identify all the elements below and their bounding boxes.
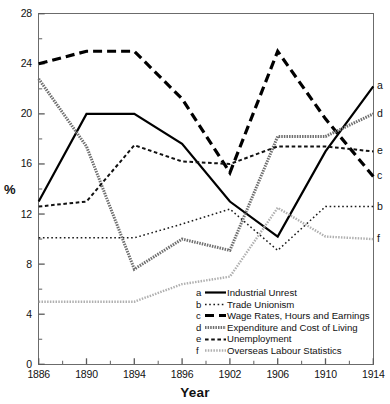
y-axis-title: %	[4, 182, 16, 197]
x-tick-label: 1894	[111, 368, 157, 380]
legend-key-f: f	[196, 345, 205, 357]
series-edge-label-f: f	[377, 232, 380, 244]
x-tick-label: 1886	[16, 368, 62, 380]
legend-swatch-c	[205, 311, 226, 320]
legend-item-d: dExpenditure and Cost of Living	[196, 322, 370, 334]
legend-label-b: Trade Unionism	[227, 299, 294, 311]
legend-key-d: d	[196, 322, 205, 334]
legend-label-f: Overseas Labour Statistics	[227, 345, 342, 357]
series-edge-label-c: c	[377, 169, 382, 181]
legend-label-a: Industrial Unrest	[227, 287, 297, 299]
legend-key-c: c	[196, 310, 205, 322]
legend-swatch-f	[205, 346, 226, 355]
legend-item-b: bTrade Unionism	[196, 299, 370, 311]
x-axis-title: Year	[0, 385, 390, 400]
y-tick-label: 24	[6, 57, 32, 69]
x-tick-label: 1906	[255, 368, 301, 380]
legend-item-e: eUnemployment	[196, 333, 370, 345]
series-edge-label-a: a	[377, 79, 383, 91]
legend-item-a: aIndustrial Unrest	[196, 287, 370, 299]
legend-key-e: e	[196, 333, 205, 345]
series-edge-label-e: e	[377, 144, 383, 156]
y-tick-label: 28	[6, 7, 32, 19]
y-tick-label: 16	[6, 157, 32, 169]
series-edge-label-b: b	[377, 200, 383, 212]
legend-swatch-d	[205, 323, 226, 332]
y-axis-ticks	[39, 14, 45, 365]
x-tick-label: 1890	[64, 368, 110, 380]
legend-key-a: a	[196, 287, 205, 299]
legend-swatch-a	[205, 288, 226, 297]
chart-legend: aIndustrial UnrestbTrade UnionismcWage R…	[196, 287, 370, 357]
x-tick-label: 1910	[303, 368, 349, 380]
legend-key-b: b	[196, 299, 205, 311]
x-tick-label: 1896	[159, 368, 205, 380]
y-tick-label: 4	[6, 308, 32, 320]
y-tick-label: 12	[6, 208, 32, 220]
series-line-a	[39, 86, 374, 236]
y-tick-label: 8	[6, 258, 32, 270]
legend-item-f: fOverseas Labour Statistics	[196, 345, 370, 357]
series-lines	[39, 51, 374, 301]
series-edge-label-d: d	[377, 107, 383, 119]
x-tick-label: 1914	[350, 368, 390, 380]
x-axis-ticks	[39, 358, 374, 364]
y-tick-label: 20	[6, 107, 32, 119]
series-line-b	[39, 207, 374, 251]
legend-label-c: Wage Rates, Hours and Earnings	[227, 310, 370, 322]
x-tick-label: 1902	[207, 368, 253, 380]
legend-swatch-b	[205, 300, 226, 309]
legend-item-c: cWage Rates, Hours and Earnings	[196, 310, 370, 322]
legend-label-e: Unemployment	[227, 333, 292, 345]
chart-container: 0481216202428 % 188618901894189619021906…	[0, 0, 390, 404]
legend-label-d: Expenditure and Cost of Living	[227, 322, 358, 334]
legend-swatch-e	[205, 335, 226, 344]
